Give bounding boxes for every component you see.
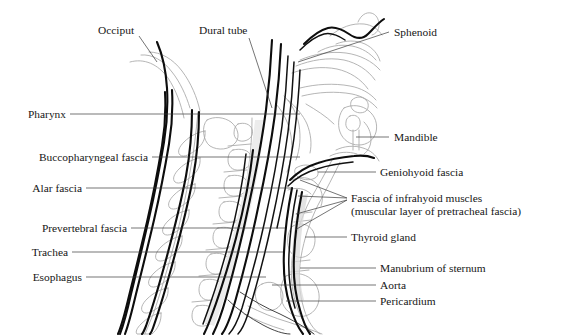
- label-geniohyoid-fascia: Geniohyoid fascia: [380, 166, 463, 178]
- label-manubrium-of-sternum: Manubrium of sternum: [380, 262, 486, 274]
- label-esophagus: Esophagus: [33, 271, 83, 283]
- label-pharynx: Pharynx: [28, 108, 66, 120]
- label-aorta: Aorta: [380, 279, 406, 291]
- label-buccopharyngeal-fascia: Buccopharyngeal fascia: [39, 151, 148, 163]
- label-fascia-infrahyoid-muscles: Fascia of infrahyoid muscles: [351, 192, 483, 204]
- label-sphenoid: Sphenoid: [394, 26, 437, 38]
- leader-occiput: [139, 36, 157, 62]
- label-trachea: Trachea: [32, 246, 68, 258]
- anatomy-figure: Occiput Dural tube Pharynx Buccopharynge…: [0, 0, 566, 335]
- label-mandible: Mandible: [394, 131, 438, 143]
- figure-canvas: Occiput Dural tube Pharynx Buccopharynge…: [0, 0, 566, 335]
- geniohyoid-fascia-line: [290, 156, 374, 180]
- leader-dural-tube: [249, 38, 272, 108]
- label-alar-fascia: Alar fascia: [32, 182, 82, 194]
- label-dural-tube: Dural tube: [199, 24, 247, 36]
- label-fascia-infrahyoid-muscles-sub: (muscular layer of pretracheal fascia): [351, 205, 521, 218]
- cranial-base-contour: [304, 19, 384, 44]
- label-thyroid-gland: Thyroid gland: [351, 231, 416, 243]
- label-prevertebral-fascia: Prevertebral fascia: [42, 222, 127, 234]
- label-pericardium: Pericardium: [380, 295, 436, 307]
- label-occiput: Occiput: [98, 24, 135, 36]
